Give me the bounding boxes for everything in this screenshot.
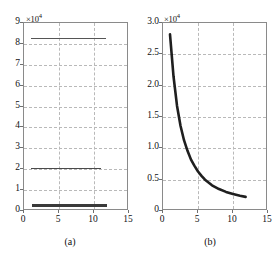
y-tick-label-b-20: 2.0 [139, 80, 159, 90]
plot-area-b [162, 22, 267, 210]
y-tickmark-b-30 [159, 22, 162, 23]
y-tick-label-b-15: 1.5 [139, 111, 159, 121]
y-tick-label-a-2: 2 [0, 163, 20, 173]
x-tickmark-a-0 [23, 210, 24, 213]
y-tick-label-b-25: 2.5 [139, 49, 159, 59]
panel-b: ×104 3.0 2.5 2.0 1.5 1.0 0.5 0 [140, 0, 280, 261]
gridline-h-a-7 [24, 65, 127, 66]
panel-caption-a: (a) [0, 236, 140, 247]
x-tickmark-b-0 [162, 210, 163, 213]
gridline-h-a-5 [24, 107, 127, 108]
y-tick-label-a-3: 3 [0, 143, 20, 153]
plot-area-a [23, 22, 128, 210]
x-tickmark-a-15 [128, 210, 129, 213]
gridline-h-a-3 [24, 148, 127, 149]
figure-two-panel: ×104 9 8 7 6 5 4 3 2 1 0 [0, 0, 280, 261]
x-tick-label-a-5: 5 [56, 215, 61, 225]
y-tick-label-b-10: 1.0 [139, 143, 159, 153]
y-tickmark-a-5 [20, 106, 23, 107]
y-tick-label-a-9: 9 [0, 17, 20, 27]
gridline-h-a-6 [24, 86, 127, 87]
y-tickmark-a-8 [20, 43, 23, 44]
gridline-h-a-2 [24, 169, 127, 170]
gridline-h-a-8 [24, 44, 127, 45]
x-tick-label-a-15: 15 [123, 215, 133, 225]
y-tickmark-b-05 [159, 179, 162, 180]
y-tick-label-a-7: 7 [0, 59, 20, 69]
x-tick-label-a-10: 10 [88, 215, 98, 225]
y-tick-label-a-6: 6 [0, 80, 20, 90]
x-tickmark-a-10 [93, 210, 94, 213]
y-tick-label-a-1: 1 [0, 184, 20, 194]
y-tick-label-a-4: 4 [0, 122, 20, 132]
y-tickmark-b-15 [159, 116, 162, 117]
y-tick-label-a-0: 0 [0, 205, 20, 215]
y-tickmark-b-25 [159, 53, 162, 54]
y-tick-label-b-0: 0 [139, 205, 159, 215]
y-tickmark-a-1 [20, 189, 23, 190]
trace-middle-flat-a [31, 168, 101, 170]
y-tick-label-a-5: 5 [0, 101, 20, 111]
gridline-h-a-4 [24, 127, 127, 128]
x-tickmark-b-10 [232, 210, 233, 213]
x-tick-label-a-0: 0 [21, 215, 26, 225]
trace-upper-flat-a [31, 38, 106, 39]
multiplier-exponent-a: 4 [39, 12, 42, 19]
y-tick-label-a-8: 8 [0, 38, 20, 48]
decay-curve-b [163, 23, 267, 210]
y-tickmark-a-4 [20, 126, 23, 127]
gridline-h-a-1 [24, 190, 127, 191]
y-tickmark-a-3 [20, 147, 23, 148]
panel-caption-b: (b) [140, 236, 280, 247]
x-tick-label-b-10: 10 [227, 215, 237, 225]
x-tick-label-b-5: 5 [195, 215, 200, 225]
y-tickmark-a-2 [20, 168, 23, 169]
y-tickmark-a-6 [20, 85, 23, 86]
y-tickmark-a-7 [20, 64, 23, 65]
y-tick-label-b-30: 3.0 [139, 17, 159, 27]
y-tick-label-b-05: 0.5 [139, 174, 159, 184]
x-tick-label-b-0: 0 [160, 215, 165, 225]
gridline-v-a-10 [94, 23, 95, 209]
gridline-v-a-5 [59, 23, 60, 209]
x-tickmark-a-5 [58, 210, 59, 213]
y-tickmark-a-9 [20, 22, 23, 23]
x-tick-label-b-15: 15 [262, 215, 272, 225]
panel-a: ×104 9 8 7 6 5 4 3 2 1 0 [0, 0, 140, 261]
x-tickmark-b-15 [267, 210, 268, 213]
y-tickmark-b-20 [159, 85, 162, 86]
trace-lower-flat-a [32, 204, 106, 207]
multiplier-exponent-b: 4 [177, 12, 180, 19]
x-tickmark-b-5 [197, 210, 198, 213]
y-tickmark-b-10 [159, 147, 162, 148]
